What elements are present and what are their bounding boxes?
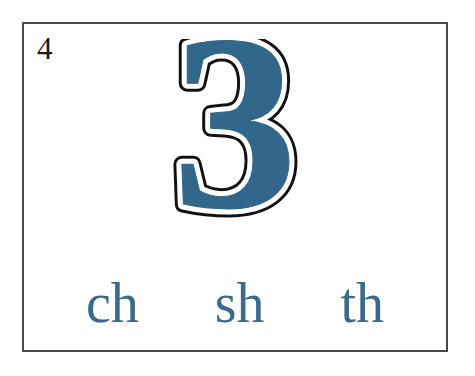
digraph-item-ch: ch xyxy=(84,275,141,331)
numeral-three-graphic: 3 3 3 xyxy=(155,39,315,224)
numeral-fill: 3 xyxy=(173,39,298,224)
flashcard-page: 4 3 3 3 ch sh th xyxy=(0,0,475,376)
digraph-item-th: th xyxy=(339,275,387,331)
numeral-display-area: 3 3 3 xyxy=(22,34,448,229)
digraph-list: ch sh th xyxy=(24,270,446,336)
digraph-item-sh: sh xyxy=(213,275,267,331)
